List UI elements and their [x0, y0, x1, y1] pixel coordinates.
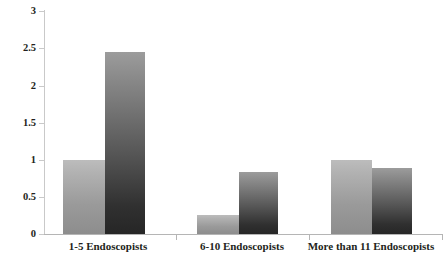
y-tick-mark-3: [39, 11, 44, 12]
y-axis-tick-labels: 3 2.5 2 1.5 1 0.5 0: [0, 0, 36, 260]
bar-group3-series2: [372, 168, 412, 234]
y-tick-mark-1: [39, 160, 44, 161]
bar-chart: 3 2.5 2 1.5 1 0.5 0 1-5 Endoscopists 6-1…: [0, 0, 447, 260]
y-tick-label-1: 1: [2, 155, 36, 166]
y-tick-label-2: 2: [2, 81, 36, 92]
y-tick-label-2.5: 2.5: [2, 43, 36, 54]
y-tick-mark-2.5: [39, 48, 44, 49]
bar-group3-series1: [331, 160, 372, 234]
y-tick-mark-0.5: [39, 197, 44, 198]
y-tick-label-0.5: 0.5: [2, 192, 36, 203]
y-tick-mark-1.5: [39, 123, 44, 124]
bar-group1-series2: [105, 52, 145, 234]
y-tick-label-0: 0: [2, 229, 36, 240]
x-axis-label-group1: 1-5 Endoscopists: [38, 240, 178, 252]
x-axis-label-group3: More than 11 Endoscopists: [295, 240, 447, 252]
x-axis-line: [44, 234, 443, 235]
y-tick-mark-2: [39, 86, 44, 87]
y-tick-label-1.5: 1.5: [2, 118, 36, 129]
bar-group2-series2: [239, 172, 278, 234]
x-axis-label-group2: 6-10 Endoscopists: [172, 240, 312, 252]
bar-group1-series1: [63, 160, 105, 234]
y-tick-label-3: 3: [2, 6, 36, 17]
bar-group2-series1: [197, 215, 239, 234]
y-axis-line: [44, 10, 45, 235]
